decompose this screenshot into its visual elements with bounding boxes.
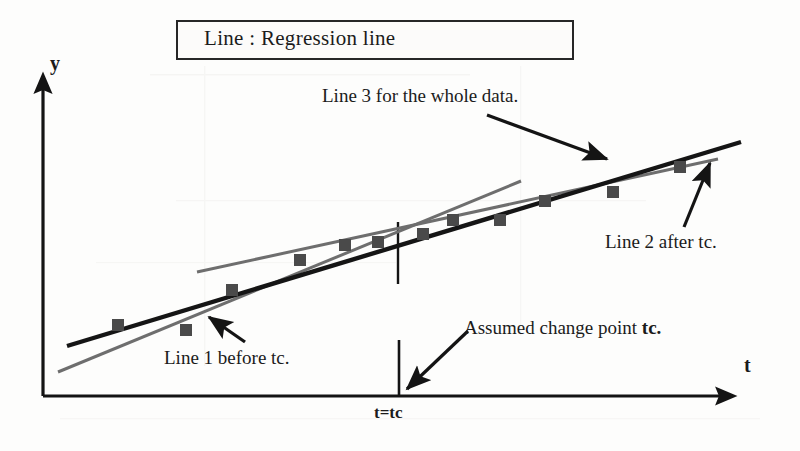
data-point-marker xyxy=(372,236,384,248)
line2-annotation-arrow xyxy=(684,163,710,227)
data-point-marker xyxy=(180,324,192,336)
figure-container: Line : Regression line y t t=tc Line 3 f… xyxy=(0,0,800,451)
line2-annotation-label: Line 2 after tc. xyxy=(605,232,717,253)
line3-annotation-arrow xyxy=(487,115,607,159)
data-point-marker xyxy=(294,254,306,266)
y-axis-label: y xyxy=(50,52,60,74)
data-point-marker xyxy=(539,195,551,207)
t-axis-label: t xyxy=(744,354,751,376)
data-point-marker xyxy=(674,161,686,173)
data-point-marker xyxy=(494,214,506,226)
change-point-annotation-label: Assumed change point tc. xyxy=(464,318,661,339)
change-point-tick-label: t=tc xyxy=(374,404,403,423)
legend-label: Line : Regression line xyxy=(204,27,395,50)
regression-change-point-chart xyxy=(0,0,800,451)
line1-annotation-label: Line 1 before tc. xyxy=(164,348,290,369)
data-point-marker xyxy=(417,228,429,240)
line1-annotation-arrow xyxy=(209,317,245,342)
change-point-tick-group xyxy=(398,222,399,396)
change-point-annotation-arrow xyxy=(407,331,468,389)
data-point-marker xyxy=(226,284,238,296)
data-point-marker xyxy=(112,319,124,331)
data-point-marker xyxy=(607,186,619,198)
change-point-annotation-emphasis: tc. xyxy=(642,317,662,338)
change-point-annotation-text: Assumed change point xyxy=(464,317,642,338)
data-point-marker xyxy=(339,239,351,251)
data-point-marker xyxy=(447,214,459,226)
line3-annotation-label: Line 3 for the whole data. xyxy=(322,86,518,107)
